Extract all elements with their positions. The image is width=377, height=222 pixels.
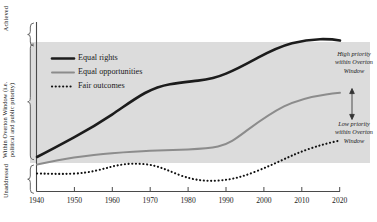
legend-label-equal-opportunities: Equal opportunities bbox=[78, 67, 142, 76]
y-region-label-unaddressed: Unaddressed bbox=[3, 164, 10, 198]
x-tick-label-2000: 2000 bbox=[247, 196, 281, 205]
x-tick-label-1960: 1960 bbox=[95, 196, 129, 205]
x-tick-label-1940: 1940 bbox=[20, 196, 54, 205]
y-region-label-achieved: Achieved bbox=[3, 6, 10, 31]
annotation-high-priority: High priority within Overton Window bbox=[333, 50, 375, 75]
x-tick-label-2020: 2020 bbox=[323, 196, 357, 205]
chart-figure: Achieved Within Overton Window (i.e. pol… bbox=[0, 0, 377, 222]
y-region-label-line2: political and public priority) bbox=[9, 82, 16, 158]
legend-label-equal-rights: Equal rights bbox=[78, 53, 118, 62]
x-tick-label-2010: 2010 bbox=[285, 196, 319, 205]
x-tick-label-1950: 1950 bbox=[57, 196, 91, 205]
x-tick-label-1970: 1970 bbox=[133, 196, 167, 205]
y-region-label-overton-window: Within Overton Window (i.e. political an… bbox=[2, 46, 15, 158]
legend-label-fair-outcomes: Fair outcomes bbox=[78, 81, 125, 90]
overton-window-line-chart bbox=[0, 0, 377, 222]
x-tick-label-1990: 1990 bbox=[209, 196, 243, 205]
annotation-low-priority: Low priority within Overton Window bbox=[333, 120, 375, 145]
x-tick-marks bbox=[37, 187, 340, 192]
x-tick-label-1980: 1980 bbox=[171, 196, 205, 205]
brace-unaddressed bbox=[28, 165, 34, 193]
